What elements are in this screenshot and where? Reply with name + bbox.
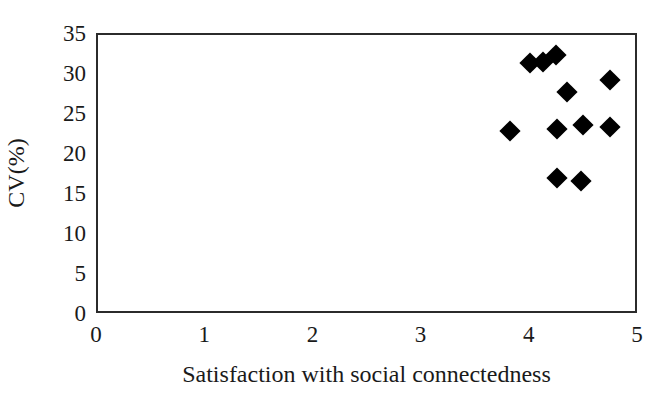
y-tick-label: 0: [75, 302, 87, 325]
x-tick-label: 0: [90, 323, 102, 346]
y-tick-label: 20: [63, 142, 86, 165]
y-tick-label: 25: [63, 102, 86, 125]
x-tick-label: 3: [415, 323, 427, 346]
x-tick-label: 2: [307, 323, 319, 346]
chart-page: 05101520253035 012345 CV(%) Satisfaction…: [0, 0, 669, 409]
x-tick-label: 4: [523, 323, 535, 346]
x-axis-title: Satisfaction with social connectedness: [96, 362, 637, 386]
y-tick-label: 30: [63, 62, 86, 85]
y-tick-label: 5: [75, 262, 87, 285]
y-tick-label: 15: [63, 182, 86, 205]
y-axis-title: CV(%): [4, 138, 28, 207]
y-tick-label: 10: [63, 222, 86, 245]
x-tick-label: 5: [631, 323, 643, 346]
x-tick-label: 1: [198, 323, 210, 346]
y-tick-label: 35: [63, 22, 86, 45]
plot-area-frame: [96, 33, 637, 313]
